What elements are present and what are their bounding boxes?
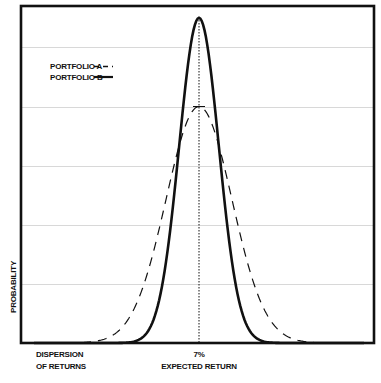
x-axis-label: EXPECTED RETURN: [161, 362, 237, 371]
x-tick-label-center-value: 7%: [193, 350, 204, 359]
grid-lines: [21, 48, 374, 285]
y-axis-label: PROBABILITY: [9, 260, 18, 313]
chart: PORTFOLIO A PORTFOLIO B PROBABILITY DISP…: [0, 0, 381, 383]
legend: PORTFOLIO A PORTFOLIO B: [50, 62, 113, 82]
x-tick-label-dispersion-line2: OF RETURNS: [36, 362, 87, 371]
x-tick-label-dispersion-line1: DISPERSION: [36, 350, 84, 359]
plot-frame: [21, 6, 374, 343]
